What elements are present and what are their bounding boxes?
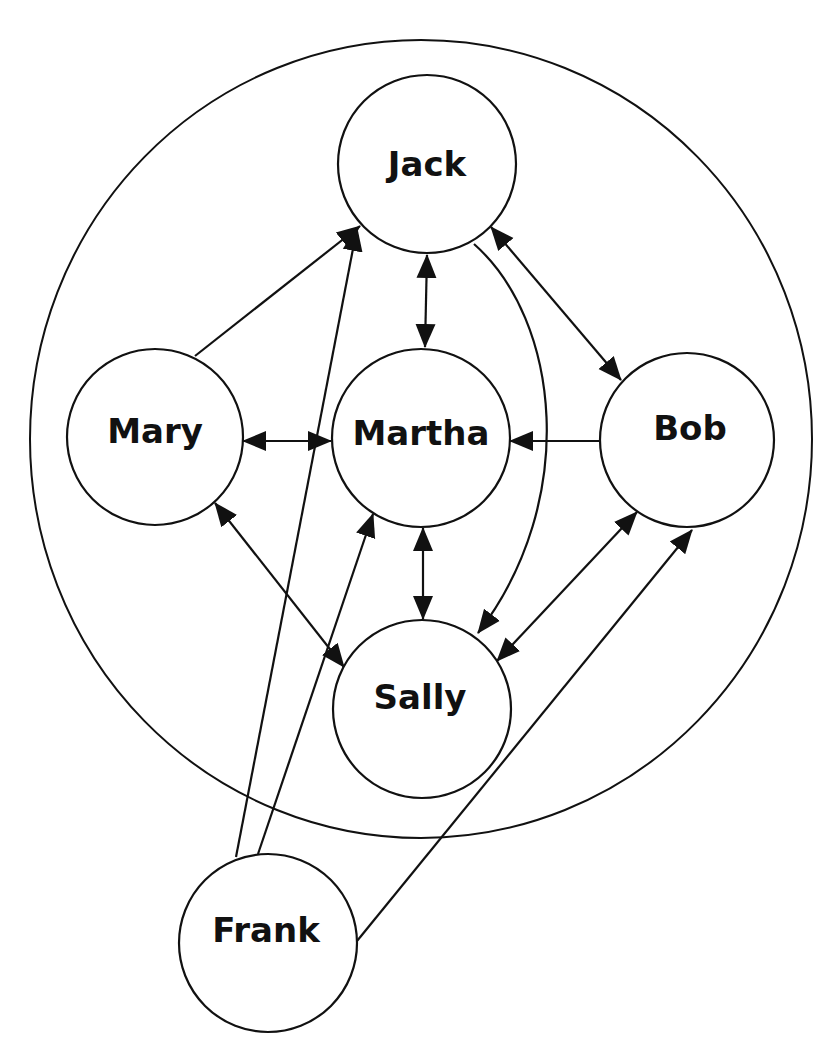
node-frank: Frank xyxy=(179,854,357,1032)
node-label-bob: Bob xyxy=(653,408,727,448)
node-label-frank: Frank xyxy=(212,910,321,950)
node-martha: Martha xyxy=(332,349,510,527)
network-diagram: Jack Mary Martha Bob Sally Frank xyxy=(0,0,824,1053)
node-mary: Mary xyxy=(67,349,243,525)
edges xyxy=(195,226,692,941)
edge-mary-sally xyxy=(215,503,344,667)
edge-jack-martha xyxy=(425,255,427,347)
node-label-jack: Jack xyxy=(386,144,468,184)
node-jack: Jack xyxy=(338,75,516,253)
node-label-martha: Martha xyxy=(353,413,490,453)
edge-frank-jack xyxy=(236,228,357,857)
edge-bob-sally xyxy=(497,512,637,661)
node-bob: Bob xyxy=(600,353,774,527)
node-label-mary: Mary xyxy=(107,411,203,451)
edge-jack-bob xyxy=(491,227,621,380)
node-sally: Sally xyxy=(333,620,511,798)
node-label-sally: Sally xyxy=(374,677,467,717)
